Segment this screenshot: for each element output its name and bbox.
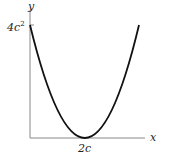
y-tick-exp: 2 bbox=[20, 20, 24, 28]
parabola-chart: y 4c2 2c x bbox=[0, 0, 169, 162]
x-axis-label: x bbox=[150, 132, 156, 143]
parabola-curve bbox=[30, 25, 139, 138]
x-tick-label: 2c bbox=[78, 143, 91, 154]
y-axis-label: y bbox=[28, 1, 34, 12]
chart-plot bbox=[0, 0, 169, 162]
y-tick-base: 4c bbox=[7, 21, 20, 34]
y-tick-label: 4c2 bbox=[7, 21, 25, 33]
